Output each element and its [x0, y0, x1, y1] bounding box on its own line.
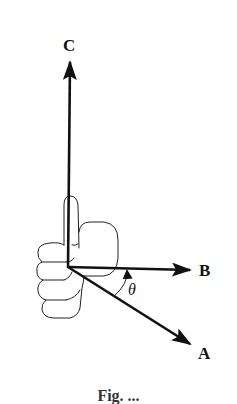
vector-c-arrow [68, 62, 70, 268]
vector-a-label: A [198, 345, 210, 362]
hand-icon [37, 196, 118, 318]
angle-theta-label: θ [128, 282, 136, 298]
theta-arc [114, 271, 127, 296]
vector-a-arrow [68, 267, 190, 344]
vector-b-arrow [68, 267, 190, 270]
vector-c-label: C [63, 37, 75, 54]
vector-b-label: B [199, 262, 210, 279]
figure-caption: Fig. ... [0, 388, 237, 404]
